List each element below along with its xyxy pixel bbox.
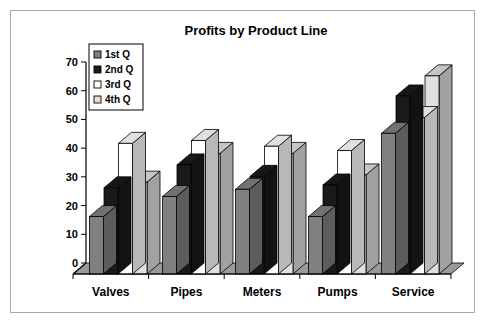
bar-pumps-1st-q <box>309 206 336 274</box>
legend-swatch <box>94 96 101 103</box>
legend-item-2nd-q[interactable]: 2nd Q <box>94 64 134 75</box>
legend-label: 1st Q <box>105 49 130 60</box>
legend-label: 2nd Q <box>105 64 134 75</box>
legend-item-3rd-q[interactable]: 3rd Q <box>94 79 131 90</box>
legend-item-1st-q[interactable]: 1st Q <box>94 49 130 60</box>
x-category-label-meters: Meters <box>243 285 282 299</box>
y-tick-label: 10 <box>66 228 78 240</box>
x-category-label-service: Service <box>392 285 435 299</box>
x-axis-category-labels: ValvesPipesMetersPumpsService <box>92 285 435 299</box>
y-tick-label: 50 <box>66 113 78 125</box>
y-tick-label: 0 <box>72 257 78 269</box>
bar-pipes-1st-q <box>163 185 190 274</box>
bar-valves-1st-q <box>90 206 117 274</box>
bar-meters-1st-q <box>236 178 263 274</box>
legend-swatch <box>94 81 101 88</box>
chart-frame: Profits by Product Line 010203040506070 … <box>10 10 475 313</box>
y-tick-label: 40 <box>66 142 78 154</box>
y-tick-label: 70 <box>66 56 78 68</box>
y-tick-label: 60 <box>66 85 78 97</box>
legend-label: 4th Q <box>105 94 131 105</box>
x-category-label-pumps: Pumps <box>318 285 358 299</box>
chart-title: Profits by Product Line <box>184 23 327 38</box>
y-tick-label: 20 <box>66 200 78 212</box>
chart-legend: 1st Q2nd Q3rd Q4th Q <box>89 44 143 110</box>
x-category-label-pipes: Pipes <box>170 285 202 299</box>
legend-label: 3rd Q <box>105 79 131 90</box>
legend-item-4th-q[interactable]: 4th Q <box>94 94 131 105</box>
legend-swatch <box>94 51 101 58</box>
profits-bar-chart: Profits by Product Line 010203040506070 … <box>11 11 474 312</box>
bar-series-group <box>90 65 453 274</box>
x-axis <box>73 274 451 279</box>
x-category-label-valves: Valves <box>92 285 130 299</box>
y-axis-ticks: 010203040506070 <box>66 56 86 269</box>
legend-swatch <box>94 66 101 73</box>
bar-service-1st-q <box>382 122 409 274</box>
y-tick-label: 30 <box>66 171 78 183</box>
